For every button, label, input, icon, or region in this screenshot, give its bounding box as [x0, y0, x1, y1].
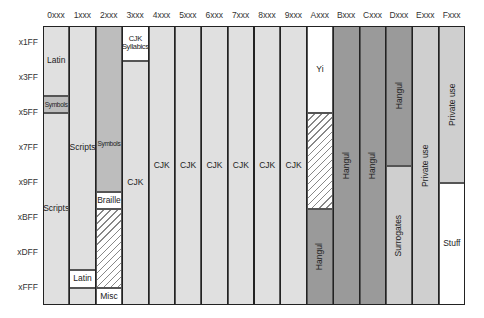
column-label: Dxxx: [386, 10, 412, 20]
block-yi-a: Yi: [307, 26, 333, 113]
column-label: 8xxx: [254, 10, 280, 20]
row-label: x9FF: [0, 177, 38, 187]
block-cjk-7: CJK: [228, 26, 254, 305]
column-divider: [438, 26, 439, 305]
column-divider: [148, 26, 149, 305]
block-label: CJK Syllabics: [122, 35, 148, 52]
block-label: Private use: [421, 144, 430, 187]
column-label: 3xxx: [122, 10, 148, 20]
block-private-e: Private use: [412, 26, 438, 305]
column-label: 0xxx: [43, 10, 69, 20]
unicode-allocation-map: 0xxx1xxx2xxx3xxx4xxx5xxx6xxx7xxx8xxx9xxx…: [0, 0, 484, 318]
block-hangul-d: Hangul: [386, 26, 412, 166]
row-label: xDFF: [0, 247, 38, 257]
block-cjk-5: CJK: [175, 26, 201, 305]
column-divider: [385, 26, 386, 305]
block-cjk-8: CJK: [254, 26, 280, 305]
row-label: x1FF: [0, 37, 38, 47]
column-label: Bxxx: [333, 10, 359, 20]
column-label: 2xxx: [96, 10, 122, 20]
block-label: Misc: [100, 292, 117, 301]
row-label: x3FF: [0, 72, 38, 82]
block-scripts-1: Scripts: [69, 26, 95, 270]
row-label: xBFF: [0, 212, 38, 222]
column-label: Fxxx: [439, 10, 465, 20]
column-label: Axxx: [307, 10, 333, 20]
block-label: Yi: [316, 65, 323, 74]
column-divider: [95, 26, 96, 305]
block-hangul-b: Hangul: [333, 26, 359, 305]
block-label: Symbols: [45, 101, 68, 108]
column-divider: [333, 26, 334, 305]
block-scripts-0: Scripts: [43, 113, 69, 305]
column-label: 9xxx: [280, 10, 306, 20]
block-stuff-f: Stuff: [439, 183, 465, 305]
block-label: Latin: [47, 56, 65, 65]
block-private-f: Private use: [439, 26, 465, 183]
block-symbols-2: Symbols: [96, 26, 122, 192]
block-cjk-syllabics-3: CJK Syllabics: [122, 26, 148, 61]
block-misc-2: Misc: [96, 288, 122, 305]
block-cjk-9: CJK: [280, 26, 306, 305]
block-label: Latin: [73, 274, 91, 283]
block-symbols-0: Symbols: [43, 96, 69, 113]
block-label: Hangul: [368, 152, 377, 179]
block-unassigned-2: [96, 209, 122, 287]
block-label: Braille: [97, 196, 121, 205]
column-divider: [201, 26, 202, 305]
block-label: CJK: [206, 161, 222, 170]
block-label: Hangul: [342, 152, 351, 179]
column-label: Cxxx: [360, 10, 386, 20]
block-label: CJK: [286, 161, 302, 170]
column-label: 6xxx: [201, 10, 227, 20]
row-label: xFFF: [0, 282, 38, 292]
row-label: x5FF: [0, 107, 38, 117]
column-label: 5xxx: [175, 10, 201, 20]
block-label: CJK: [259, 161, 275, 170]
block-cjk-3: CJK: [122, 61, 148, 305]
block-braille-2: Braille: [96, 192, 122, 209]
block-cjk-4: CJK: [149, 26, 175, 305]
column-divider: [306, 26, 307, 305]
column-divider: [280, 26, 281, 305]
block-label: Hangul: [394, 82, 403, 109]
column-divider: [69, 26, 70, 305]
block-latin-1: Latin: [69, 270, 95, 287]
column-divider: [227, 26, 228, 305]
block-label: Private use: [447, 83, 456, 126]
column-label: 1xxx: [69, 10, 95, 20]
block-label: Stuff: [443, 239, 460, 248]
block-label: Scripts: [70, 143, 96, 152]
block-label: CJK: [180, 161, 196, 170]
block-label: CJK: [233, 161, 249, 170]
block-unassigned-a: [307, 113, 333, 209]
block-surrogates-d: Surrogates: [386, 166, 412, 306]
column-divider: [359, 26, 360, 305]
block-label: CJK: [154, 161, 170, 170]
block-latin-0: Latin: [43, 26, 69, 96]
column-label: Exxx: [412, 10, 438, 20]
block-label: Surrogates: [394, 214, 403, 256]
block-label: Hangul: [315, 244, 324, 271]
block-hangul-c: Hangul: [360, 26, 386, 305]
column-label: 4xxx: [149, 10, 175, 20]
column-divider: [122, 26, 123, 305]
column-label: 7xxx: [228, 10, 254, 20]
block-hangul-a: Hangul: [307, 209, 333, 305]
block-label: Symbols: [98, 140, 121, 147]
column-divider: [253, 26, 254, 305]
column-divider: [412, 26, 413, 305]
block-blank-1: [69, 288, 95, 305]
column-divider: [174, 26, 175, 305]
block-label: CJK: [127, 178, 143, 187]
row-label: x7FF: [0, 142, 38, 152]
block-label: Scripts: [43, 204, 69, 213]
block-cjk-6: CJK: [201, 26, 227, 305]
